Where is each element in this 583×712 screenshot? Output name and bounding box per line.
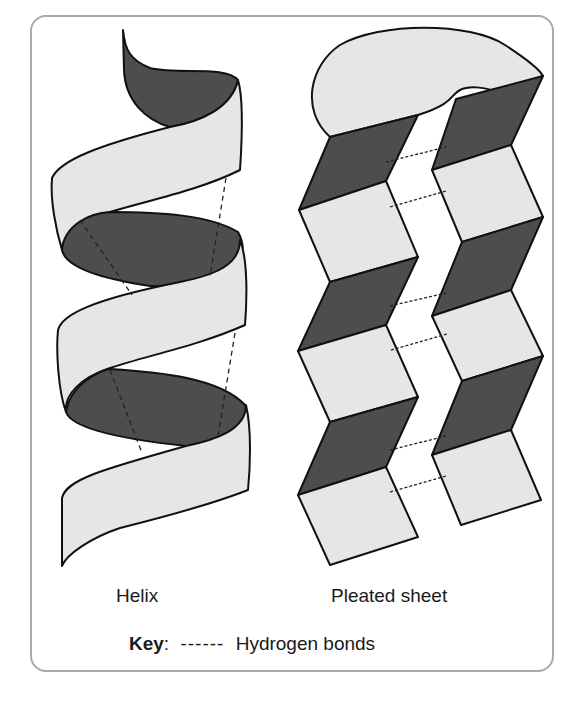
pleated-sheet-label: Pleated sheet [331,585,447,607]
key-label: Key [129,633,164,654]
helix-label: Helix [116,585,158,607]
dashed-line-icon: ------ [180,633,224,654]
key-text: Hydrogen bonds [236,633,375,654]
protein-structure-diagram [0,0,583,712]
legend-key: Key: ------ Hydrogen bonds [129,633,375,655]
key-colon: : [164,633,169,654]
alpha-helix-ribbon [52,30,250,566]
beta-pleated-sheet [298,28,543,565]
